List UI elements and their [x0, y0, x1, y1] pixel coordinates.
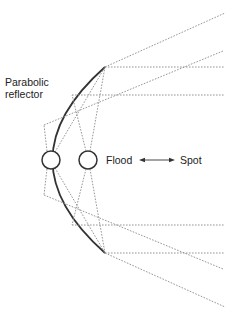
reflector-label-line1: Parabolic: [5, 76, 49, 88]
spot-label: Spot: [180, 154, 202, 166]
double-arrow-icon: [139, 158, 175, 162]
flood-label: Flood: [106, 154, 132, 166]
reflector-label-line2: reflector: [5, 88, 49, 100]
spot-source-circle: [79, 151, 97, 169]
reflector-label: Parabolic reflector: [5, 76, 49, 100]
flood-source-circle: [42, 151, 60, 169]
